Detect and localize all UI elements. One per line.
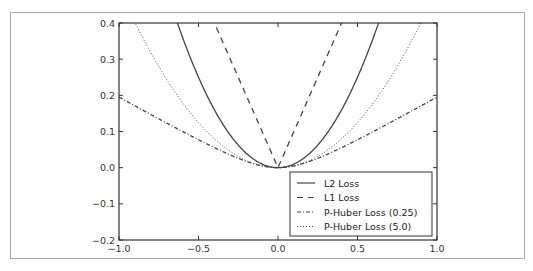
x-tick-label: 1.0 xyxy=(429,243,444,254)
y-tick-label: 0.2 xyxy=(100,90,115,101)
legend-label: L1 Loss xyxy=(324,192,359,203)
y-tick-label: 0.1 xyxy=(100,126,115,137)
y-tick-label: −0.2 xyxy=(92,235,115,246)
legend-label: P-Huber Loss (0.25) xyxy=(324,207,417,218)
y-tick-label: 0.4 xyxy=(100,18,115,29)
legend: L2 LossL1 LossP-Huber Loss (0.25)P-Huber… xyxy=(290,172,432,236)
legend-label: L2 Loss xyxy=(324,178,359,189)
y-tick-label: 0.0 xyxy=(100,162,115,173)
series-p-huber-loss-0-25 xyxy=(119,97,437,168)
y-tick-label: 0.3 xyxy=(100,54,115,65)
loss-chart: −1.0−0.50.00.51.0 0.40.30.20.10.0−0.1−0.… xyxy=(0,0,533,271)
y-tick-label: −0.1 xyxy=(92,198,115,209)
x-tick-label: 0.5 xyxy=(350,243,365,254)
x-tick-label: −0.5 xyxy=(187,243,210,254)
x-tick-label: 0.0 xyxy=(270,243,285,254)
legend-label: P-Huber Loss (5.0) xyxy=(324,221,411,232)
